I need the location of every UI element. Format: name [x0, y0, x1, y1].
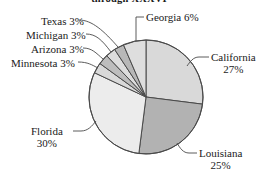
pie-slice-louisiana[interactable]	[139, 97, 203, 154]
slice-label-florida: Florida 30%	[31, 126, 63, 149]
slice-label-michigan-text: Michigan 3%	[26, 29, 86, 41]
slice-label-florida-name: Florida	[31, 125, 63, 137]
slice-label-minnesota: Minnesota 3%	[11, 58, 75, 70]
slice-label-florida-percent: 30%	[31, 138, 63, 150]
leader-line-arizona	[83, 48, 103, 59]
leader-line-louisiana	[177, 143, 197, 153]
leader-line-minnesota	[78, 62, 98, 68]
slice-label-california: California 27%	[211, 52, 256, 75]
slice-label-michigan: Michigan 3%	[26, 30, 86, 42]
slice-label-minnesota-text: Minnesota 3%	[11, 57, 75, 69]
pie-chart-figure: through XXXVI	[0, 0, 258, 178]
leader-line-georgia	[136, 17, 144, 41]
slice-label-georgia-text: Georgia 6%	[146, 11, 199, 23]
slice-label-arizona-text: Arizona 3%	[31, 43, 84, 55]
leader-line-florida	[73, 121, 96, 131]
slice-label-california-percent: 27%	[211, 64, 256, 76]
pie-slice-california[interactable]	[146, 40, 203, 104]
slice-label-texas: Texas 3%	[41, 16, 84, 28]
slice-label-arizona: Arizona 3%	[31, 44, 84, 56]
slice-label-louisiana-percent: 25%	[199, 160, 242, 172]
slice-label-louisiana-name: Louisiana	[199, 147, 242, 159]
slice-label-california-name: California	[211, 51, 256, 63]
pie-slices	[89, 40, 203, 154]
slice-label-louisiana: Louisiana 25%	[199, 148, 242, 171]
slice-label-georgia: Georgia 6%	[146, 12, 199, 24]
slice-label-texas-text: Texas 3%	[41, 15, 84, 27]
